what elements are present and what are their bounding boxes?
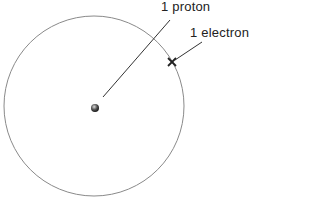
electron-leader-line bbox=[175, 42, 202, 60]
proton-nucleus bbox=[91, 104, 99, 112]
electron-label: 1 electron bbox=[190, 25, 249, 40]
proton-label: 1 proton bbox=[161, 0, 210, 14]
proton-leader-line bbox=[103, 20, 170, 97]
electron-marker bbox=[168, 58, 176, 66]
